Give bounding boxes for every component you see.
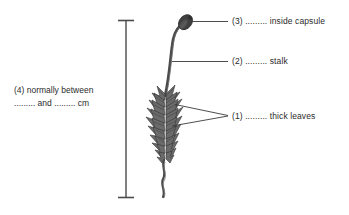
moss-plant-illustration [146, 12, 195, 198]
moss-diagram-figure: (3) ......... inside capsule (2) .......… [0, 0, 349, 215]
leader-line-1a [175, 105, 228, 116]
label-1-text: (1) ......... thick leaves [232, 111, 315, 122]
height-measurement-bar [118, 20, 134, 198]
label-4-line2: ......... and ......... cm [14, 97, 93, 110]
moss-rhizoid-base [162, 160, 165, 198]
label-4-line1: (4) normally between [14, 84, 93, 97]
label-3-text: (3) ......... inside capsule [232, 16, 325, 27]
label-2-text: (2) ......... stalk [232, 56, 288, 67]
label-4-note: (4) normally between ......... and .....… [14, 84, 93, 109]
moss-stalk [165, 25, 181, 96]
moss-thick-leaves [146, 85, 183, 163]
